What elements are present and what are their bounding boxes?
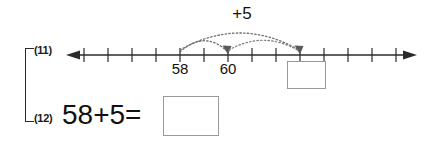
problem-number-12: (12) xyxy=(34,112,52,124)
dotted-jump-arc-58-to-answer-icon xyxy=(180,33,299,50)
worksheet-canvas: (11) (12) xyxy=(0,0,438,145)
jump-total-label: +5 xyxy=(220,4,264,24)
right-arrowhead-icon xyxy=(403,51,417,60)
equation-expression: 58+5= xyxy=(62,99,141,131)
dotted-jump-arc-60-to-answer-icon xyxy=(229,40,299,51)
equation-answer-box[interactable] xyxy=(163,96,219,136)
number-line-answer-box[interactable] xyxy=(287,61,326,89)
left-arrowhead-icon xyxy=(66,51,80,60)
jump-arrowhead-answer-icon xyxy=(295,46,304,55)
number-line-graphic xyxy=(0,0,438,95)
tick-label-60: 60 xyxy=(208,60,248,77)
tick-label-58: 58 xyxy=(160,60,200,77)
